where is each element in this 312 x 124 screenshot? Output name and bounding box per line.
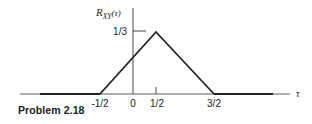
y-tick-label: 1/3 [113,26,127,37]
y-axis-label: RXY(τ) [95,6,121,21]
x-axis-label: τ [296,88,300,99]
x-tick-label-three-halves: 3/2 [207,98,221,109]
x-tick-label-zero: 0 [130,98,136,109]
triangle-curve [100,32,214,94]
x-tick-label-half: 1/2 [150,98,164,109]
x-tick-label-neg-half: -1/2 [91,98,109,109]
figure-caption: Problem 2.18 [18,104,85,116]
